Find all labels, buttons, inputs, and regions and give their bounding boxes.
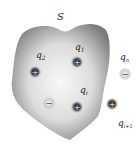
minus-sign-icon: − [46, 99, 53, 108]
plus-sign-icon: + [109, 100, 116, 109]
charge-negative: − [43, 97, 55, 109]
charge-qi-plus-1: + qi+1 [106, 98, 133, 129]
svg-text:qi+1: qi+1 [118, 118, 133, 129]
gauss-surface-diagram: S q2 + q1 + qn − qi + − + qi+1 [0, 0, 138, 161]
plus-sign-icon: + [74, 58, 81, 67]
minus-sign-icon: − [122, 70, 129, 79]
plus-sign-icon: + [74, 103, 81, 112]
surface-label: S [57, 11, 64, 22]
gaussian-surface [12, 24, 110, 140]
plus-sign-icon: + [32, 68, 39, 77]
charge-qn: qn − [119, 52, 131, 80]
svg-text:qn: qn [120, 52, 129, 63]
